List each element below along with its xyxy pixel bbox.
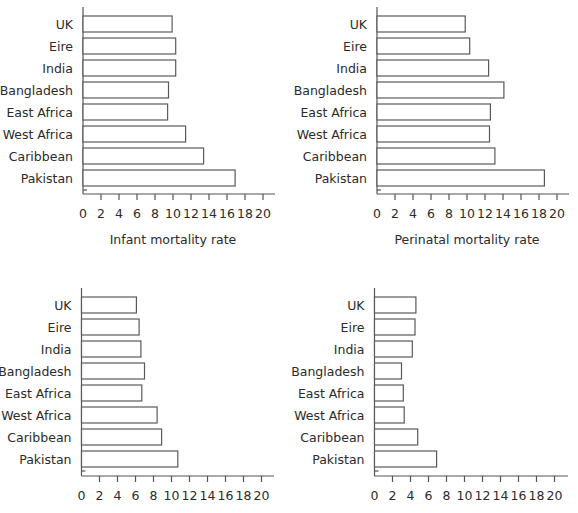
x-tick-label: 4 (407, 488, 415, 503)
bar-india (375, 341, 413, 357)
bar-caribbean (375, 429, 418, 445)
x-tick-label: 12 (475, 488, 491, 503)
bar-west-africa (375, 407, 405, 423)
bar-bangladesh (375, 363, 402, 379)
x-tick-label: 0 (371, 488, 379, 503)
category-label: Eire (341, 320, 365, 335)
bar-east-africa (375, 385, 404, 401)
x-tick-label: 16 (511, 488, 527, 503)
x-tick-label: 6 (425, 488, 433, 503)
bar-uk (375, 297, 416, 313)
x-tick-label: 8 (443, 488, 451, 503)
category-label: West Africa (294, 408, 364, 423)
bar-eire (375, 319, 416, 335)
x-tick-label: 10 (457, 488, 473, 503)
x-tick-label: 2 (389, 488, 397, 503)
x-tick-label: 18 (529, 488, 545, 503)
chart-svg: UKEireIndiaBangladeshEast AfricaWest Afr… (0, 0, 578, 513)
bar-pakistan (375, 451, 437, 467)
category-label: Pakistan (312, 452, 364, 467)
category-label: East Africa (298, 386, 365, 401)
category-label: Caribbean (300, 430, 364, 445)
x-tick-label: 14 (493, 488, 509, 503)
category-label: UK (347, 298, 365, 313)
chart-bottom-right: UKEireIndiaBangladeshEast AfricaWest Afr… (0, 0, 578, 513)
x-tick-label: 20 (547, 488, 563, 503)
category-label: India (334, 342, 365, 357)
category-label: Bangladesh (291, 364, 364, 379)
